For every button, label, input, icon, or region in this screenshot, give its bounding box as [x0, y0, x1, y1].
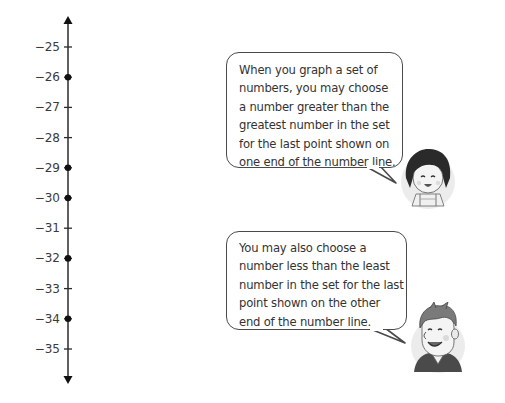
speech-bubble-girl-text: When you graph a set of numbers, you may…	[239, 61, 402, 171]
tick-label: −25	[10, 40, 60, 54]
tick-label: −29	[10, 161, 60, 175]
bubble-line: for the last point shown on	[239, 135, 402, 153]
girl-avatar-icon	[392, 144, 462, 210]
tick-label: −34	[10, 312, 60, 326]
bubble-line: numbers, you may choose	[239, 79, 402, 97]
plotted-point	[65, 255, 72, 262]
arrow-down-icon	[64, 376, 73, 384]
bubble-line: greatest number in the set	[239, 116, 402, 134]
tick-label: −32	[10, 251, 60, 265]
plotted-point	[65, 74, 72, 81]
speech-bubble-boy: You may also choose a number less than t…	[226, 231, 407, 330]
plotted-point	[65, 165, 72, 172]
bubble-line: number less than the least	[239, 257, 406, 275]
tick-label: −28	[10, 131, 60, 145]
bubble-line: When you graph a set of	[239, 61, 402, 79]
tick-label: −35	[10, 342, 60, 356]
tail-seam	[370, 327, 383, 331]
plotted-point	[65, 316, 72, 323]
boy-avatar-icon	[400, 302, 472, 374]
tick-label: −26	[10, 70, 60, 84]
bubble-line: a number greater than the	[239, 98, 402, 116]
speech-bubble-boy-text: You may also choose a number less than t…	[239, 239, 406, 331]
tail-seam	[367, 165, 379, 169]
speech-bubble-girl: When you graph a set of numbers, you may…	[226, 52, 403, 168]
tick-label: −30	[10, 191, 60, 205]
arrow-up-icon	[64, 16, 73, 24]
tick-label: −27	[10, 100, 60, 114]
bubble-line: You may also choose a	[239, 239, 406, 257]
bubble-line: number in the set for the last	[239, 276, 406, 294]
bubble-line: point shown on the other	[239, 294, 406, 312]
tick-label: −33	[10, 282, 60, 296]
plotted-point	[65, 195, 72, 202]
tick-label: −31	[10, 221, 60, 235]
